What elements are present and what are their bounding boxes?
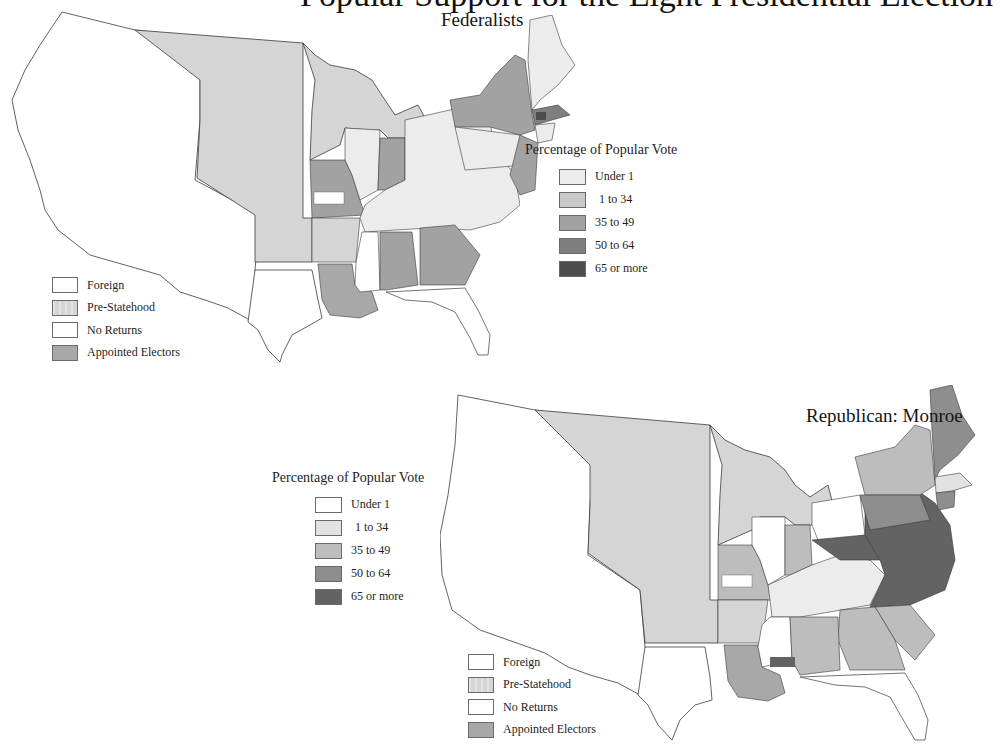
foreign-texas [638,647,712,740]
legend-item-no-returns: No Returns [468,696,596,719]
legend-swatch [315,520,342,536]
missouri-no-returns [314,192,344,204]
new-york [855,425,935,495]
legend-item-appointed-electors: Appointed Electors [52,342,180,365]
legend-heading: Percentage of Popular Vote [525,142,677,158]
federalists-title: Federalists [441,9,523,31]
connecticut-ri [535,123,555,143]
legend-swatch [468,722,494,738]
maine-nh-vt [930,385,975,480]
legend-swatch [559,261,586,277]
legend-heading: Percentage of Popular Vote [272,470,424,486]
pre-statehood-arkansas [312,218,360,262]
legend-swatch [559,192,586,208]
legend-item-under-1: Under 1 [559,165,677,188]
legend-item-50-to-64: 50 to 64 [559,234,677,257]
massachusetts [935,473,972,493]
legend-swatch [468,654,494,670]
legend-swatch [315,566,342,582]
legend-swatch [315,497,342,513]
federalists-percentage-legend: Percentage of Popular Vote Under 1 1 to … [525,142,677,280]
legend-swatch [468,699,494,715]
federalists-category-legend: Foreign Pre-Statehood No Returns Appoint… [52,274,180,364]
legend-item-pre-statehood: Pre-Statehood [468,674,596,697]
legend-item-35-to-49: 35 to 49 [559,211,677,234]
legend-item-65-plus: 65 or more [315,585,424,608]
legend-item-50-to-64: 50 to 64 [315,562,424,585]
legend-swatch [315,589,342,605]
legend-swatch [52,277,78,293]
mississippi [355,232,380,292]
republican-title: Republican: Monroe [806,405,963,427]
foreign-texas [248,270,322,362]
legend-item-appointed-electors: Appointed Electors [468,719,596,742]
new-york [450,55,535,135]
legend-swatch [559,238,586,254]
legend-item-foreign: Foreign [52,274,180,297]
alabama [790,617,840,675]
legend-item-foreign: Foreign [468,651,596,674]
legend-item-65-plus: 65 or more [559,257,677,280]
mass-65-plus [536,112,546,120]
legend-item-1-to-34: 1 to 34 [315,516,424,539]
legend-item-35-to-49: 35 to 49 [315,539,424,562]
connecticut-ri [936,491,955,510]
missouri-no-returns [722,575,752,587]
legend-swatch [52,322,78,338]
legend-swatch [52,300,78,316]
alabama [380,232,418,290]
legend-item-no-returns: No Returns [52,319,180,342]
legend-item-under-1: Under 1 [315,493,424,516]
legend-swatch [559,169,586,185]
legend-swatch [52,345,78,361]
republican-category-legend: Foreign Pre-Statehood No Returns Appoint… [468,651,596,741]
legend-swatch [468,677,494,693]
florida-foreign [386,288,490,355]
florida-foreign [800,673,928,740]
republican-percentage-legend: Percentage of Popular Vote Under 1 1 to … [272,470,424,608]
legend-swatch [315,543,342,559]
legend-swatch [559,215,586,231]
legend-item-pre-statehood: Pre-Statehood [52,297,180,320]
maine-nh [528,15,575,110]
mississippi-south [770,657,795,667]
legend-item-1-to-34: 1 to 34 [559,188,677,211]
